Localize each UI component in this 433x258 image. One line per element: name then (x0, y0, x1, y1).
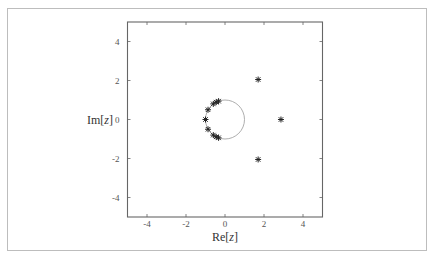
y-tick-label: 2 (115, 76, 120, 86)
asterisk-marker (205, 126, 211, 132)
y-axis-label: Im[z] (87, 113, 113, 127)
x-tick-label: -4 (143, 219, 151, 229)
y-tick-label: -4 (112, 193, 120, 203)
root-locus-chart: -4-2024-4-2024 Re[z] Im[z] (0, 0, 433, 258)
asterisk-marker (255, 77, 261, 83)
x-axis-label: Re[z] (212, 230, 238, 244)
x-tick-label: 2 (262, 219, 267, 229)
data-points (203, 77, 284, 163)
asterisk-marker (255, 156, 261, 162)
y-tick-label: -2 (112, 154, 120, 164)
y-tick-label: 0 (115, 115, 120, 125)
x-tick-label: 4 (301, 219, 306, 229)
asterisk-marker (216, 98, 222, 104)
x-tick-label: -2 (182, 219, 190, 229)
y-tick-label: 4 (115, 37, 120, 47)
asterisk-marker (205, 107, 211, 113)
asterisk-marker (216, 135, 222, 141)
axes-box (128, 22, 323, 217)
asterisk-marker (203, 117, 209, 123)
plot-area (128, 22, 323, 217)
x-tick-label: 0 (223, 219, 228, 229)
asterisk-marker (278, 117, 284, 123)
axis-ticks: -4-2024-4-2024 (112, 22, 323, 229)
